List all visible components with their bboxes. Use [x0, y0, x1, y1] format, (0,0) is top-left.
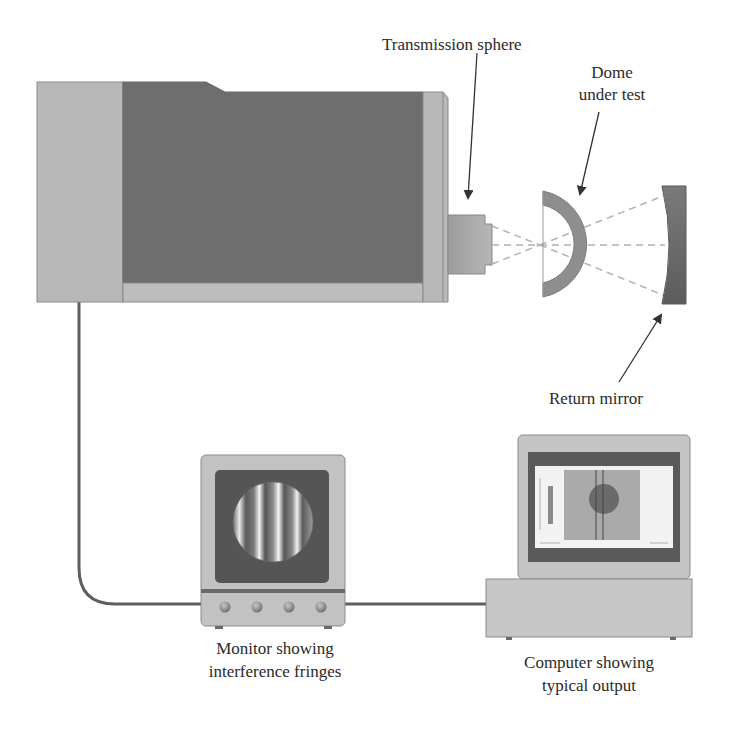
dome-under-test [543, 191, 587, 297]
monitor-knob [316, 602, 327, 613]
interferometer-body [37, 82, 448, 302]
monitor-knob [252, 602, 263, 613]
label-dome-line2: under test [579, 85, 646, 104]
cable [79, 302, 205, 604]
return-mirror [662, 186, 686, 304]
label-return-mirror: Return mirror [549, 389, 643, 408]
interference-fringes [233, 482, 313, 562]
label-monitor-line2: interference fringes [209, 662, 342, 681]
monitor [201, 455, 345, 629]
arrow-dome [580, 112, 599, 194]
monitor-knob [284, 602, 295, 613]
label-monitor-line1: Monitor showing [216, 639, 334, 658]
arrow-return-mirror [619, 315, 661, 382]
arrow-transmission-sphere [468, 53, 477, 198]
transmission-sphere [448, 215, 492, 274]
label-transmission-sphere: Transmission sphere [382, 35, 522, 54]
label-computer-line2: typical output [542, 676, 636, 695]
label-dome-line1: Dome [591, 63, 633, 82]
computer [486, 435, 692, 640]
interferometer-diagram: Transmission sphere Dome under test Retu… [0, 0, 731, 731]
computer-screen-output [535, 466, 673, 548]
label-computer-line1: Computer showing [524, 653, 654, 672]
monitor-knob [220, 602, 231, 613]
